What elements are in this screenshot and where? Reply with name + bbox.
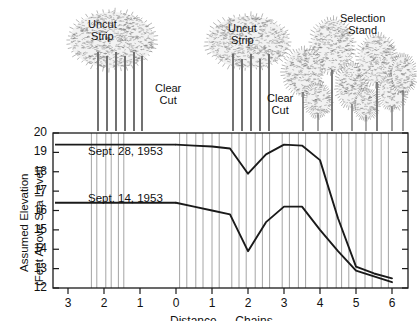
label-sept-28: Sept. 28, 1953 bbox=[88, 145, 163, 157]
x-tick-w1: 1 bbox=[130, 296, 150, 310]
plot-area bbox=[53, 133, 408, 294]
stand-label-line: Stand bbox=[340, 24, 385, 36]
stand-label-uncut-strip-left: UncutStrip bbox=[88, 18, 117, 42]
x-tick-w2: 2 bbox=[94, 296, 114, 310]
y-axis-title-line2: (Feet Above Sea Level) bbox=[33, 166, 45, 286]
label-sept-14: Sept. 14, 1953 bbox=[88, 192, 163, 204]
stand-label-clear-cut-right: ClearCut bbox=[267, 92, 293, 116]
x-tick-w3: 3 bbox=[58, 296, 78, 310]
x-tick-e6: 6 bbox=[382, 296, 402, 310]
stand-label-line: Cut bbox=[267, 104, 293, 116]
y-tick-20: 20 bbox=[29, 125, 47, 139]
stand-label-line: Uncut bbox=[88, 18, 117, 30]
x-tick-e3: 3 bbox=[274, 296, 294, 310]
y-axis-title-line1: Assumed Elevation bbox=[18, 174, 30, 272]
stand-label-line: Selection bbox=[340, 12, 385, 24]
x-tick-e5: 5 bbox=[346, 296, 366, 310]
x-tick-e0: 0 bbox=[166, 296, 186, 310]
stand-label-uncut-strip-right: UncutStrip bbox=[228, 22, 257, 46]
y-tick-19: 19 bbox=[29, 144, 47, 158]
stand-label-line: Cut bbox=[155, 94, 181, 106]
stand-label-selection-stand: SelectionStand bbox=[340, 12, 385, 36]
stand-label-line: Clear bbox=[155, 82, 181, 94]
stand-label-line: Strip bbox=[88, 30, 117, 42]
figure-canvas bbox=[0, 0, 417, 321]
stand-label-clear-cut-left: ClearCut bbox=[155, 82, 181, 106]
stand-label-line: Strip bbox=[228, 34, 257, 46]
x-tick-e4: 4 bbox=[310, 296, 330, 310]
stand-label-line: Uncut bbox=[228, 22, 257, 34]
x-tick-e2: 2 bbox=[238, 296, 258, 310]
stand-label-line: Clear bbox=[267, 92, 293, 104]
x-tick-e1: 1 bbox=[202, 296, 222, 310]
figure-water-table-profile: UncutStripClearCutUncutStripClearCutSele… bbox=[0, 0, 417, 321]
x-axis-title: Distance — Chains bbox=[170, 314, 273, 321]
